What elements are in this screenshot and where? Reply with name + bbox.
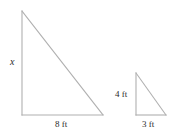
small-right-triangle	[136, 73, 166, 115]
large-triangle-height-label: x	[10, 57, 14, 67]
large-triangle-hypotenuse	[22, 11, 103, 115]
small-triangle-hypotenuse	[136, 73, 166, 115]
large-right-triangle	[22, 11, 103, 115]
similar-triangles-figure: x 8 ft 4 ft 3 ft	[0, 0, 178, 135]
large-triangle-base-label: 8 ft	[55, 120, 67, 129]
small-triangle-height-label: 4 ft	[115, 90, 127, 99]
small-triangle-base-label: 3 ft	[142, 120, 154, 129]
triangles-drawing-canvas	[0, 0, 178, 135]
